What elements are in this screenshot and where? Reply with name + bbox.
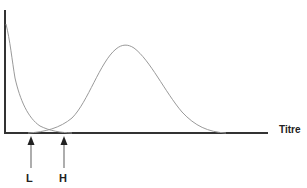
arrow-l-icon bbox=[28, 136, 35, 168]
bell-curve bbox=[28, 45, 226, 133]
decreasing-curve bbox=[6, 24, 72, 133]
x-axis-label: Titre bbox=[279, 124, 301, 135]
titre-distribution-diagram bbox=[0, 0, 307, 188]
arrow-h-icon bbox=[61, 136, 68, 168]
arrow-low-label: L bbox=[26, 172, 33, 184]
arrow-high-label: H bbox=[59, 172, 67, 184]
